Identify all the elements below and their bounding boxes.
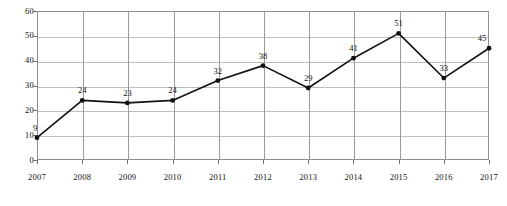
gridline-vertical bbox=[400, 12, 401, 159]
data-point-label: 24 bbox=[158, 86, 188, 95]
gridline-horizontal bbox=[38, 111, 488, 112]
x-tick-mark bbox=[399, 160, 400, 164]
x-tick-mark bbox=[263, 160, 264, 164]
x-tick-label: 2016 bbox=[422, 172, 466, 182]
x-tick-mark bbox=[37, 160, 38, 164]
data-point-label: 51 bbox=[384, 19, 414, 28]
x-tick-mark bbox=[308, 160, 309, 164]
data-point-label: 23 bbox=[112, 89, 142, 98]
gridline-vertical bbox=[219, 12, 220, 159]
data-point-label: 29 bbox=[293, 74, 323, 83]
data-point-label: 38 bbox=[248, 52, 278, 61]
x-tick-label: 2011 bbox=[196, 172, 240, 182]
y-tick-label: 0 bbox=[6, 156, 34, 165]
data-point-label: 45 bbox=[467, 34, 497, 43]
figure-caption bbox=[0, 196, 507, 206]
x-tick-mark bbox=[489, 160, 490, 164]
x-tick-mark bbox=[218, 160, 219, 164]
x-tick-mark bbox=[173, 160, 174, 164]
gridline-vertical bbox=[128, 12, 129, 159]
x-tick-mark bbox=[127, 160, 128, 164]
x-tick-label: 2009 bbox=[105, 172, 149, 182]
gridline-horizontal bbox=[38, 62, 488, 63]
gridline-vertical bbox=[264, 12, 265, 159]
x-tick-mark bbox=[353, 160, 354, 164]
x-tick-label: 2017 bbox=[467, 172, 507, 182]
x-tick-label: 2014 bbox=[331, 172, 375, 182]
data-point-label: 41 bbox=[338, 44, 368, 53]
gridline-horizontal bbox=[38, 136, 488, 137]
y-tick-label: 60 bbox=[6, 7, 34, 16]
x-tick-mark bbox=[82, 160, 83, 164]
gridline-horizontal bbox=[38, 37, 488, 38]
x-tick-label: 2007 bbox=[15, 172, 59, 182]
y-tick-label: 30 bbox=[6, 81, 34, 90]
y-tick-label: 40 bbox=[6, 56, 34, 65]
gridline-vertical bbox=[445, 12, 446, 159]
x-tick-label: 2013 bbox=[286, 172, 330, 182]
y-tick-label: 50 bbox=[6, 31, 34, 40]
y-tick-label: 20 bbox=[6, 106, 34, 115]
x-tick-label: 2008 bbox=[60, 172, 104, 182]
gridline-vertical bbox=[309, 12, 310, 159]
x-tick-label: 2010 bbox=[151, 172, 195, 182]
data-point-label: 9 bbox=[20, 124, 50, 133]
gridline-horizontal bbox=[38, 87, 488, 88]
x-tick-label: 2012 bbox=[241, 172, 285, 182]
x-tick-label: 2015 bbox=[377, 172, 421, 182]
data-point-label: 24 bbox=[67, 86, 97, 95]
plot-area bbox=[37, 11, 489, 160]
x-tick-mark bbox=[444, 160, 445, 164]
data-point-label: 33 bbox=[429, 64, 459, 73]
gridline-vertical bbox=[354, 12, 355, 159]
data-point-label: 32 bbox=[203, 67, 233, 76]
chart-figure: 0102030405060 924232432382941513345 2007… bbox=[0, 0, 507, 206]
